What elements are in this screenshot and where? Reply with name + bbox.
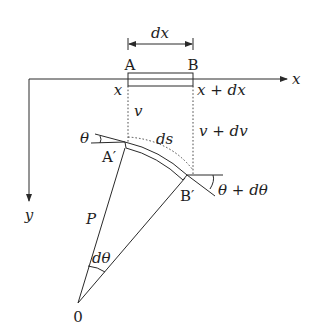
radius-line-b: [78, 178, 185, 303]
tangent-line-a: [95, 134, 125, 142]
dx-label: dx: [151, 24, 170, 42]
theta-dtheta-angle-arc: [210, 175, 214, 189]
theta-reference-line: [91, 142, 125, 143]
point-a-label: A: [124, 56, 136, 74]
ds-label: ds: [156, 130, 174, 148]
point-b-prime-label: B′: [180, 187, 195, 205]
dtheta-label: dθ: [92, 249, 111, 267]
v-plus-dv-label: v + dv: [199, 122, 248, 140]
theta-label: θ: [80, 129, 89, 147]
point-b-label: B: [187, 56, 198, 74]
beam-element-diagram: dx x y A B x x + dx v v + dv ds θ A′ θ +…: [0, 0, 320, 335]
point-a-prime-label: A′: [101, 148, 117, 166]
theta-plus-dtheta-label: θ + dθ: [218, 181, 268, 199]
x-position-label: x: [114, 81, 123, 99]
theta-angle-arc: [100, 136, 101, 143]
v-label: v: [134, 102, 143, 120]
deformed-element-end-a: [125, 142, 126, 148]
center-label: 0: [73, 308, 83, 326]
y-axis-label: y: [24, 206, 34, 224]
x-plus-dx-label: x + dx: [197, 81, 246, 99]
radius-label: P: [85, 210, 97, 228]
x-axis-label: x: [292, 70, 301, 88]
